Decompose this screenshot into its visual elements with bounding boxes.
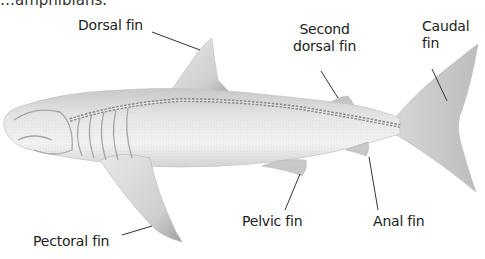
- label-anal-fin: Anal fin: [373, 213, 424, 230]
- leader-second-dorsal: [321, 71, 338, 98]
- label-second-dorsal-line2: dorsal fin: [293, 38, 356, 55]
- label-dorsal-fin: Dorsal fin: [78, 17, 143, 34]
- shark-anatomy-diagram: …amphibians.: [0, 0, 485, 259]
- label-second-dorsal-fin: Second dorsal fin: [293, 21, 356, 55]
- leader-anal: [369, 157, 378, 210]
- dorsal-fin-shape: [170, 38, 232, 95]
- label-caudal-line2: fin: [422, 35, 469, 52]
- label-caudal-line1: Caudal: [422, 18, 469, 35]
- leader-pectoral: [122, 226, 152, 235]
- label-caudal-fin: Caudal fin: [422, 18, 469, 52]
- leader-pelvic: [285, 174, 300, 210]
- leader-dorsal: [152, 32, 200, 50]
- label-second-dorsal-line1: Second: [293, 21, 356, 38]
- label-pelvic-fin: Pelvic fin: [242, 213, 302, 230]
- label-pectoral-fin: Pectoral fin: [33, 233, 109, 250]
- caudal-fin-shape: [395, 44, 478, 192]
